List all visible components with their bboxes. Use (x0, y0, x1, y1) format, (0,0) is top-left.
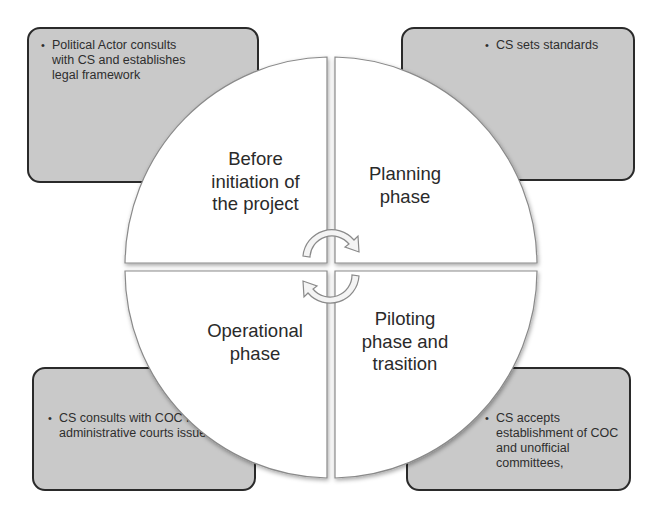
quadrant-top-right (335, 57, 537, 263)
cycle-wheel (0, 0, 652, 510)
label-line: Piloting (340, 308, 470, 331)
label-line: Planning (340, 163, 470, 186)
label-line: phase (190, 343, 320, 366)
quadrant-bottom-left (125, 271, 327, 478)
quadrant-label-operational: Operational phase (190, 320, 320, 365)
label-line: phase and (340, 331, 470, 354)
quadrant-label-piloting: Piloting phase and trasition (340, 308, 470, 376)
quadrant-label-before-initiation: Before initiation of the project (183, 148, 328, 216)
label-line: Operational (190, 320, 320, 343)
quadrant-label-planning: Planning phase (340, 163, 470, 208)
label-line: trasition (340, 353, 470, 376)
label-line: the project (183, 193, 328, 216)
label-line: initiation of (183, 171, 328, 194)
label-line: Before (183, 148, 328, 171)
label-line: phase (340, 186, 470, 209)
circular-arrows-icon (303, 230, 359, 303)
